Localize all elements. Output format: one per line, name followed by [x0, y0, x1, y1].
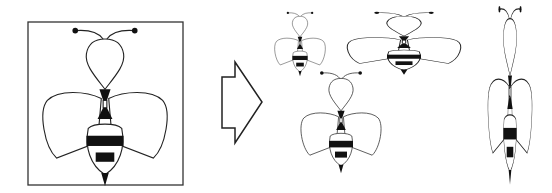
original-bee-frame — [28, 22, 183, 186]
right-arrow-icon — [222, 62, 262, 143]
bee-wide-icon — [347, 12, 460, 75]
diagram-canvas — [0, 0, 552, 193]
bee-tall-icon — [488, 6, 532, 184]
bee-small-icon — [275, 12, 326, 77]
bee-medium-icon — [301, 71, 381, 173]
